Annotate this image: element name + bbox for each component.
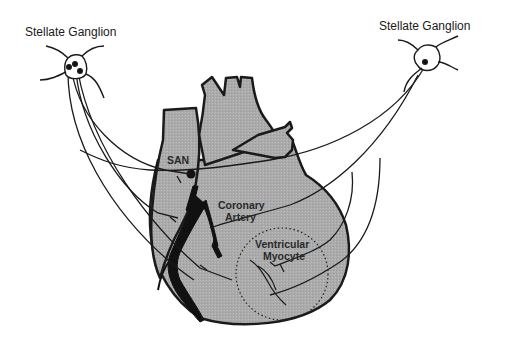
coronary-label-line1: Coronary [218,200,265,211]
heart-innervation-diagram: Stellate Ganglion Stellate Ganglion SAN … [0,0,507,347]
right-stellate-ganglion [398,36,458,92]
left-ganglion-label: Stellate Ganglion [25,26,116,38]
san-label: SAN [167,155,189,166]
diagram-canvas [0,0,507,347]
myocyte-label-line2: Myocyte [263,251,305,262]
left-stellate-ganglion [40,46,104,98]
right-ganglion-label: Stellate Ganglion [379,20,470,32]
myocyte-label-line1: Ventricular [255,239,309,250]
coronary-label-line2: Artery [225,212,256,223]
